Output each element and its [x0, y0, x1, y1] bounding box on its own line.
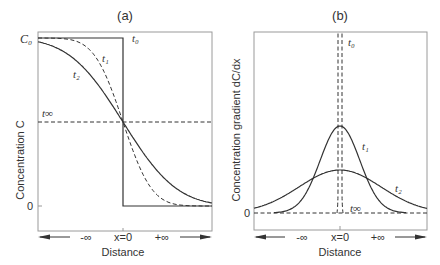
- label-a-t0: t₀: [132, 32, 139, 44]
- label-b-t0: t₀: [348, 36, 355, 48]
- series-b-t₀: [337, 33, 338, 213]
- panel-b-frame: [254, 32, 427, 230]
- label-a-t2: t₂: [73, 68, 80, 80]
- series-b-t₁: [274, 126, 406, 213]
- panel-a-ytick-c0: C₀: [20, 32, 32, 46]
- panel-a-title: (a): [117, 8, 133, 23]
- panel-b-ylabel: Concentration gradient dC/dx: [230, 58, 242, 202]
- panel-a-pos-inf: +∞: [155, 231, 169, 243]
- label-b-tinf: t∞: [350, 202, 361, 214]
- panel-b: (b) Concentration gradient dC/dx 0 t₀ t₁…: [230, 8, 427, 258]
- panel-b-xlabel: Distance: [319, 246, 362, 258]
- panel-a-xlabel: Distance: [102, 246, 145, 258]
- panel-a: (a) Concentration C C₀ 0 t₀ t₁ t₂ t∞ -∞ …: [14, 8, 212, 258]
- label-b-t1: t₁: [362, 140, 369, 152]
- panel-b-x0: x=0: [331, 231, 349, 243]
- panel-b-pos-inf: +∞: [371, 231, 385, 243]
- panel-b-ytick-0: 0: [244, 207, 250, 219]
- panel-a-ytick-0: 0: [27, 200, 33, 212]
- panel-a-x0: x=0: [114, 231, 132, 243]
- panel-a-neg-inf: -∞: [80, 231, 92, 243]
- label-a-t1: t₁: [102, 52, 109, 64]
- series-b-t₀-right: [342, 33, 343, 213]
- label-a-tinf: t∞: [42, 107, 53, 119]
- figure: (a) Concentration C C₀ 0 t₀ t₁ t₂ t∞ -∞ …: [0, 0, 440, 265]
- panel-a-frame: [38, 32, 212, 231]
- panel-a-ylabel: Concentration C: [14, 120, 26, 200]
- panel-b-neg-inf: -∞: [296, 231, 308, 243]
- panel-b-title: (b): [332, 8, 348, 23]
- label-b-t2: t₂: [395, 182, 402, 194]
